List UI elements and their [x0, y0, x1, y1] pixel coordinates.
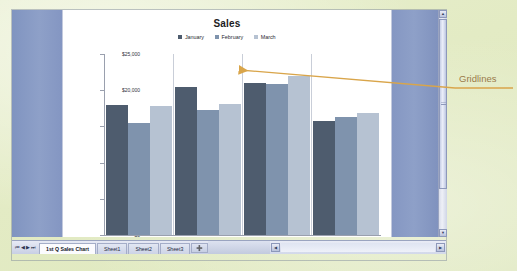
- bar-east-january[interactable]: [106, 105, 128, 235]
- bar-group-east: [104, 54, 173, 235]
- gridlines-callout-label: Gridlines: [459, 73, 497, 84]
- sheet-tab-sheet1[interactable]: Sheet1: [97, 243, 127, 254]
- scroll-left-arrow-icon[interactable]: ◀: [271, 243, 280, 252]
- bar-south-march[interactable]: [357, 113, 379, 235]
- sheet-tab-sheet2[interactable]: Sheet2: [128, 243, 158, 254]
- next-sheet-icon[interactable]: ▶: [26, 245, 30, 250]
- vertical-scrollbar-thumb[interactable]: [439, 19, 447, 189]
- bar-group-west: [173, 54, 242, 235]
- horizontal-scrollbar[interactable]: ◀ ▶: [270, 240, 446, 254]
- sheet-nav-buttons: ⏮ ◀ ▶ ⏭: [12, 245, 39, 250]
- category-gridline: [173, 54, 174, 235]
- bar-east-march[interactable]: [150, 106, 172, 235]
- sheet-tab-1st-q-sales-chart[interactable]: 1st Q Sales Chart: [39, 243, 96, 254]
- right-filler-pane: [390, 10, 438, 237]
- sheet-tab-sheet3[interactable]: Sheet3: [160, 243, 190, 254]
- category-gridline: [242, 54, 243, 235]
- bar-north-february[interactable]: [266, 84, 288, 235]
- bar-group-north: [242, 54, 311, 235]
- sheet-tabs: 1st Q Sales ChartSheet1Sheet2Sheet3: [39, 241, 191, 254]
- chart-sheet-area[interactable]: Sales JanuaryFebruaryMarch $0$5,000$10,0…: [62, 10, 392, 237]
- category-gridline: [311, 54, 312, 235]
- first-sheet-icon[interactable]: ⏮: [15, 245, 20, 250]
- last-sheet-icon[interactable]: ⏭: [31, 245, 36, 250]
- scroll-right-arrow-icon[interactable]: ▶: [436, 243, 445, 252]
- horizontal-scrollbar-track[interactable]: [281, 243, 435, 252]
- plot-wrapper: $0$5,000$10,000$15,000$20,000$25,000 Eas…: [63, 10, 391, 237]
- excel-window: Sales JanuaryFebruaryMarch $0$5,000$10,0…: [12, 10, 446, 260]
- insert-sheet-button[interactable]: ➕: [191, 243, 208, 253]
- bar-north-march[interactable]: [288, 76, 310, 235]
- x-axis-line: [104, 235, 381, 236]
- bar-west-march[interactable]: [219, 104, 241, 235]
- scroll-up-arrow-icon[interactable]: ▲: [439, 10, 447, 18]
- scroll-down-arrow-icon[interactable]: ▼: [439, 229, 447, 237]
- bar-south-february[interactable]: [335, 117, 357, 235]
- bar-south-january[interactable]: [313, 121, 335, 235]
- left-filler-pane: [12, 10, 62, 237]
- bar-north-january[interactable]: [244, 83, 266, 235]
- bar-west-january[interactable]: [175, 87, 197, 235]
- bar-group-south: [311, 54, 380, 235]
- vertical-scrollbar[interactable]: ▲ ▼: [438, 10, 447, 237]
- bar-west-february[interactable]: [197, 110, 219, 235]
- plot-area[interactable]: [104, 54, 380, 235]
- scrollbar-grip-icon: [441, 103, 446, 106]
- bar-east-february[interactable]: [128, 123, 150, 235]
- prev-sheet-icon[interactable]: ◀: [21, 245, 25, 250]
